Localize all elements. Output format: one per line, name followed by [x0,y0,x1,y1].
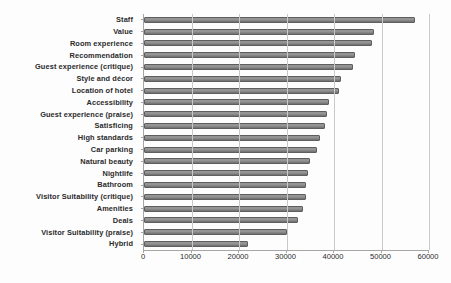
category-tick-mark [141,232,144,233]
bar [144,229,287,235]
category-label: Bathroom [0,181,137,188]
value-axis-ticks: 0100002000030000400005000060000 [143,252,428,268]
category-label: Nightlife [0,170,137,177]
bar [144,217,298,223]
category-tick-mark [141,102,144,103]
category-tick-mark [141,78,144,79]
bar [144,158,310,164]
category-tick-mark [141,55,144,56]
category-label: Hybrid [0,240,137,247]
bar [144,40,372,46]
gridline [429,14,430,250]
category-tick-mark [141,208,144,209]
bar [144,182,306,188]
category-tick-mark [141,244,144,245]
bar [144,241,248,247]
bar [144,135,320,141]
bar [144,170,308,176]
category-label: Style and décor [0,75,137,82]
category-tick-mark [141,220,144,221]
category-tick-mark [141,161,144,162]
category-label: Location of hotel [0,87,137,94]
category-tick-mark [141,90,144,91]
bar [144,64,353,70]
gridline [287,14,288,250]
category-tick-mark [141,137,144,138]
gridline [192,14,193,250]
bar [144,99,329,105]
value-tick-label: 10000 [180,252,201,261]
gridline [382,14,383,250]
bar [144,17,415,23]
category-tick-mark [141,31,144,32]
plot-area [143,14,429,251]
category-axis-labels: StaffValueRoom experienceRecommendationG… [0,14,137,250]
value-tick-label: 60000 [417,252,438,261]
category-label: Visitor Suitability (critique) [0,193,137,200]
category-label: Accessibility [0,99,137,106]
category-label: Recommendation [0,52,137,59]
category-label: Deals [0,217,137,224]
category-tick-mark [141,173,144,174]
bar [144,76,341,82]
bar [144,194,306,200]
category-label: Room experience [0,40,137,47]
category-label: High standards [0,134,137,141]
category-label: Staff [0,16,137,23]
bar [144,29,374,35]
bar [144,52,355,58]
category-tick-mark [141,43,144,44]
value-tick-label: 30000 [275,252,296,261]
category-tick-mark [141,126,144,127]
category-tick-mark [141,149,144,150]
category-label: Satisficing [0,122,137,129]
category-tick-mark [141,19,144,20]
bar [144,88,339,94]
bar-chart: StaffValueRoom experienceRecommendationG… [0,0,451,283]
value-tick-label: 50000 [370,252,391,261]
category-tick-mark [141,185,144,186]
gridline [239,14,240,250]
category-label: Amenities [0,205,137,212]
category-label: Guest experience (critique) [0,63,137,70]
category-tick-mark [141,196,144,197]
category-label: Value [0,28,137,35]
gridline [334,14,335,250]
bar [144,147,317,153]
bar [144,111,327,117]
category-label: Visitor Suitability (praise) [0,229,137,236]
category-tick-mark [141,114,144,115]
category-label: Guest experience (praise) [0,111,137,118]
bar [144,206,303,212]
category-label: Car parking [0,146,137,153]
bar [144,123,325,129]
category-label: Natural beauty [0,158,137,165]
category-tick-mark [141,67,144,68]
value-tick-label: 0 [141,252,145,261]
value-tick-label: 20000 [227,252,248,261]
value-tick-label: 40000 [322,252,343,261]
